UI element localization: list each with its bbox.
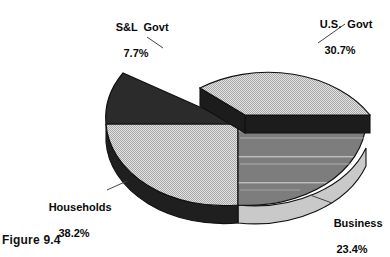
slice-label-households-name: Households <box>49 201 112 213</box>
slice-label-business-percent: 23.4% <box>316 243 388 256</box>
slice-label-sl-govt-percent: 7.7% <box>84 47 188 60</box>
slice-label-us-govt: U.S. Govt 30.7% <box>298 5 382 83</box>
slice-label-us-govt-name: U.S. Govt <box>320 18 373 30</box>
slice-label-business-name: Business <box>334 217 383 229</box>
figure-caption: Figure 9.4 <box>2 233 61 247</box>
slice-label-sl-govt: S&L Govt 7.7% <box>84 8 188 86</box>
slice-label-us-govt-percent: 30.7% <box>298 44 382 57</box>
slice-business <box>238 124 366 205</box>
figure-container: U.S. Govt 30.7% S&L Govt 7.7% Households… <box>0 0 390 257</box>
slice-label-sl-govt-name: S&L Govt <box>116 21 169 33</box>
slice-label-business: Business 23.4% <box>316 204 388 257</box>
